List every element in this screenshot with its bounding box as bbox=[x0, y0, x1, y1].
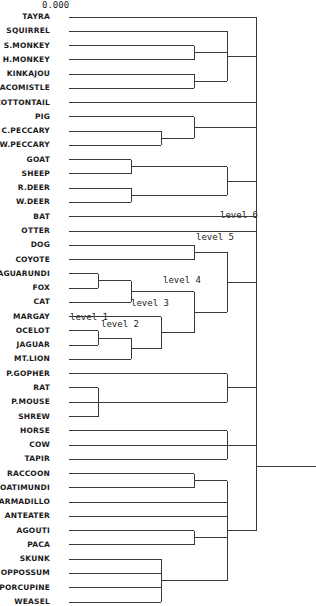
dendrogram-lines bbox=[0, 0, 316, 606]
dendrogram: 0.000 TAYRASQUIRRELS.MONKEYH.MONKEYKINKA… bbox=[0, 0, 316, 606]
